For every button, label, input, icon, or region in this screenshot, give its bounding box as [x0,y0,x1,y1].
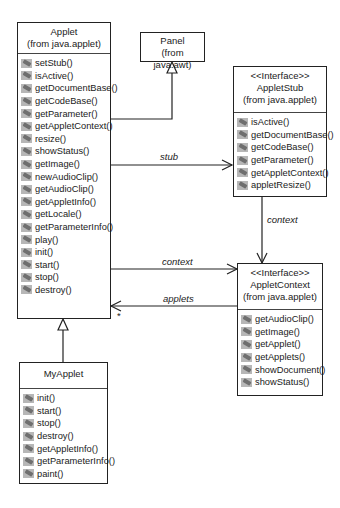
method-icon [237,168,248,177]
method-icon [23,406,34,415]
operation[interactable]: resize() [21,133,110,146]
class-name: AppletStub [236,82,324,94]
method-icon [21,172,32,181]
operation[interactable]: getLocale() [21,208,110,221]
method-icon [241,353,252,362]
operation[interactable]: getParameter() [237,154,326,167]
method-icon [21,185,32,194]
stereotype: <<Interface>> [240,267,320,279]
operation[interactable]: stop() [23,417,107,430]
operation[interactable]: newAudioClip() [21,170,110,183]
operation[interactable]: destroy() [23,430,107,443]
operation[interactable]: start() [21,259,110,272]
method-icon [21,97,32,106]
operation[interactable]: paint() [23,468,107,481]
operation[interactable]: isActive() [237,116,326,129]
class-name: Panel [143,35,202,47]
operations-list: getAudioClip() getImage() getApplet() ge… [238,310,322,391]
class-name: AppletContext [240,279,320,291]
operation[interactable]: getAppletInfo() [23,442,107,455]
operation[interactable]: getDocumentBase() [237,129,326,142]
operation[interactable]: getParameterInfo() [21,221,110,234]
method-icon [237,181,248,190]
class-package: (from java.awt) [143,47,202,71]
operation[interactable]: init() [23,392,107,405]
operation[interactable]: getAudioClip() [21,183,110,196]
operation[interactable]: getCodeBase() [237,141,326,154]
class-header: MyApplet [20,363,107,389]
stereotype: <<Interface>> [236,70,324,82]
method-icon [241,315,252,324]
label-context: context [162,256,193,267]
method-icon [241,340,252,349]
class-header: <<Interface>> AppletContext (from java.a… [238,264,322,310]
generalization-applet-panel [110,72,172,119]
operation[interactable]: getParameterInfo() [23,455,107,468]
method-icon [21,260,32,269]
method-icon [237,156,248,165]
method-icon [21,197,32,206]
method-icon [21,273,32,282]
operation[interactable]: getImage() [241,326,322,339]
method-icon [237,143,248,152]
interface-appletcontext[interactable]: <<Interface>> AppletContext (from java.a… [237,263,323,396]
operation[interactable]: play() [21,233,110,246]
operation[interactable]: getParameter() [21,107,110,120]
operation[interactable]: getDocumentBase() [21,82,110,95]
method-icon [21,122,32,131]
class-header: Panel (from java.awt) [141,33,204,74]
operation[interactable]: stop() [21,271,110,284]
method-icon [21,235,32,244]
method-icon [21,109,32,118]
method-icon [21,59,32,68]
operation[interactable]: getAppletInfo() [21,196,110,209]
class-package: (from java.applet) [20,38,108,50]
method-icon [23,469,34,478]
class-name: Applet [20,26,108,38]
method-icon [21,71,32,80]
class-header: Applet (from java.applet) [18,23,110,54]
method-icon [237,118,248,127]
operation[interactable]: getAudioClip() [241,313,322,326]
method-icon [21,147,32,156]
operation[interactable]: getImage() [21,158,110,171]
method-icon [241,365,252,374]
operation[interactable]: appletResize() [237,179,326,192]
class-name: MyApplet [22,368,105,380]
operation[interactable]: start() [23,405,107,418]
multiplicity-applets: * [117,310,121,321]
operation[interactable]: getApplets() [241,351,322,364]
class-package: (from java.applet) [240,291,320,303]
class-panel[interactable]: Panel (from java.awt) [140,32,205,62]
operation[interactable]: getAppletContext() [21,120,110,133]
interface-appletstub[interactable]: <<Interface>> AppletStub (from java.appl… [233,66,327,197]
operation[interactable]: showStatus() [241,376,322,389]
method-icon [23,457,34,466]
operation[interactable]: getCodeBase() [21,95,110,108]
operation[interactable]: setStub() [21,57,110,70]
method-icon [21,285,32,294]
operation[interactable]: getApplet() [241,338,322,351]
method-icon [23,444,34,453]
method-icon [23,432,34,441]
operations-list: isActive() getDocumentBase() getCodeBase… [234,113,326,194]
operation[interactable]: showDocument() [241,363,322,376]
label-stub-context: context [267,214,298,225]
operation[interactable]: init() [21,246,110,259]
method-icon [237,130,248,139]
method-icon [23,419,34,428]
class-applet[interactable]: Applet (from java.applet) setStub() isAc… [17,22,111,319]
operation[interactable]: destroy() [21,284,110,297]
class-myapplet[interactable]: MyApplet init() start() stop() destroy()… [19,362,108,484]
label-applets: applets [163,293,194,304]
method-icon [241,378,252,387]
method-icon [23,394,34,403]
operation[interactable]: getAppletContext() [237,166,326,179]
operation[interactable]: isActive() [21,70,110,83]
method-icon [21,160,32,169]
operation[interactable]: showStatus() [21,145,110,158]
operations-list: init() start() stop() destroy() getApple… [20,389,107,482]
method-icon [21,134,32,143]
method-icon [21,210,32,219]
label-stub: stub [160,151,178,162]
